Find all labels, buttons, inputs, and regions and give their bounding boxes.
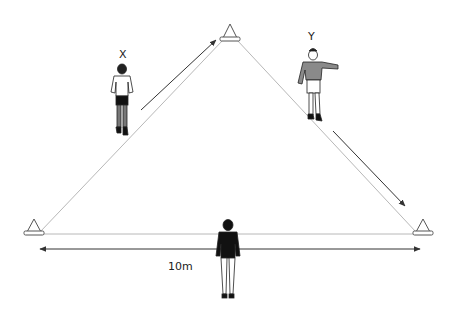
player-y-figure bbox=[298, 49, 338, 122]
arrow-y-run bbox=[333, 131, 405, 206]
right-side-line bbox=[237, 40, 416, 232]
player-x-label: X bbox=[119, 48, 127, 61]
cone-top bbox=[220, 24, 240, 41]
drill-diagram: X Y 10m bbox=[0, 0, 455, 316]
arrow-x-run bbox=[141, 40, 216, 110]
coach-figure bbox=[216, 220, 240, 299]
left-side-line bbox=[40, 40, 223, 232]
player-x-figure bbox=[111, 64, 133, 135]
triangle-lines bbox=[40, 40, 416, 234]
cone-right bbox=[413, 219, 433, 235]
player-y-label: Y bbox=[307, 30, 315, 43]
cone-left bbox=[24, 219, 44, 235]
distance-label: 10m bbox=[168, 260, 193, 273]
